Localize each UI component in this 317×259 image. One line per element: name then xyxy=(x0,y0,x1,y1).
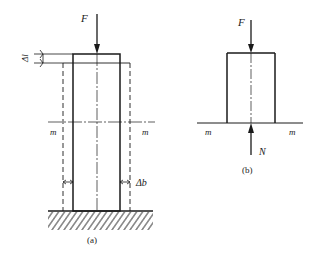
delta-l-dimension xyxy=(34,50,73,67)
arrow-up-icon xyxy=(248,123,254,133)
figure-a: F Δl m m xyxy=(20,12,155,245)
section-label-a-right: m xyxy=(142,127,149,137)
delta-b-label: Δb xyxy=(135,177,147,188)
force-label-a: F xyxy=(80,12,88,24)
delta-l-label: Δl xyxy=(20,54,30,63)
arrow-down-icon xyxy=(248,44,254,53)
column-original xyxy=(73,54,120,211)
caption-a: (a) xyxy=(87,235,97,245)
force-arrow-a xyxy=(94,14,100,54)
ground-support xyxy=(48,211,153,230)
reaction-label-n: N xyxy=(258,146,267,157)
arrow-down-icon xyxy=(94,44,100,54)
force-arrow-b xyxy=(248,20,254,53)
diagram-canvas: F Δl m m xyxy=(0,0,317,259)
section-label-b-right: m xyxy=(289,127,296,137)
figure-b: F m m N (b) xyxy=(197,16,303,175)
reaction-arrow-n xyxy=(248,123,254,155)
section-label-a-left: m xyxy=(50,127,57,137)
force-label-b: F xyxy=(237,16,245,28)
section-label-b-left: m xyxy=(205,127,212,137)
caption-b: (b) xyxy=(242,165,253,175)
